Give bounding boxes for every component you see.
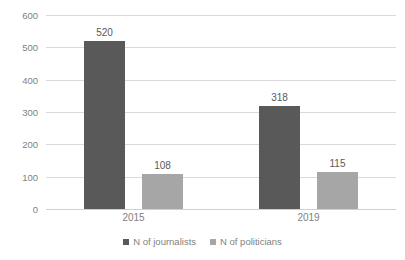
legend-item-1[interactable]: N of politicians <box>210 236 282 247</box>
bar-2019-series-1[interactable] <box>317 172 358 209</box>
x-tick-label-2019: 2019 <box>249 212 369 223</box>
legend-item-0[interactable]: N of journalists <box>123 236 196 247</box>
legend-swatch-icon-0 <box>123 239 129 245</box>
y-tick-label-0: 0 <box>0 204 38 215</box>
bar-value-label-2019-series-0: 318 <box>250 92 310 103</box>
y-tick-label-400: 400 <box>0 74 38 85</box>
plot-area: 520108318115 <box>46 15 396 209</box>
bar-group-2019: 318115 <box>221 15 396 209</box>
legend-label-1: N of politicians <box>220 236 282 247</box>
x-tick-label-2015: 2015 <box>74 212 194 223</box>
y-tick-label-300: 300 <box>0 107 38 118</box>
y-tick-label-100: 100 <box>0 171 38 182</box>
bar-2019-series-0[interactable] <box>259 106 300 209</box>
bar-chart: 0100200300400500600 520108318115 2015201… <box>0 0 405 260</box>
bar-group-2015: 520108 <box>46 15 221 209</box>
bar-value-label-2015-series-1: 108 <box>133 160 193 171</box>
bar-2015-series-0[interactable] <box>84 41 125 209</box>
bar-value-label-2015-series-0: 520 <box>75 27 135 38</box>
y-tick-label-200: 200 <box>0 139 38 150</box>
bar-value-label-2019-series-1: 115 <box>308 158 368 169</box>
bar-2015-series-1[interactable] <box>142 174 183 209</box>
gridline-0 <box>46 209 396 210</box>
legend-label-0: N of journalists <box>133 236 196 247</box>
chart-legend: N of journalistsN of politicians <box>0 236 405 247</box>
y-tick-label-500: 500 <box>0 42 38 53</box>
legend-swatch-icon-1 <box>210 239 216 245</box>
x-axis-category-labels: 20152019 <box>46 212 396 230</box>
y-tick-label-600: 600 <box>0 10 38 21</box>
